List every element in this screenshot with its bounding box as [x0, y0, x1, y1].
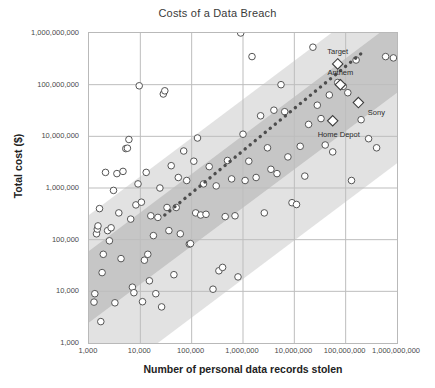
data-point — [118, 255, 125, 262]
data-point — [246, 158, 253, 165]
data-point — [235, 274, 242, 281]
data-point — [278, 81, 285, 88]
data-point — [148, 213, 155, 220]
data-point — [143, 169, 150, 176]
data-point — [155, 214, 162, 221]
data-point — [390, 55, 397, 62]
data-point-label: Anthem — [327, 67, 353, 76]
data-point — [175, 174, 182, 181]
data-point — [310, 44, 317, 51]
data-point — [268, 166, 275, 173]
x-tick-label: 1,000,000 — [225, 346, 258, 355]
data-point — [219, 264, 226, 271]
data-point — [305, 121, 312, 128]
data-point — [232, 213, 239, 220]
data-point — [157, 185, 164, 192]
data-point — [126, 136, 133, 143]
data-point — [382, 53, 389, 60]
data-point — [102, 169, 109, 176]
data-point — [183, 177, 190, 184]
data-point — [249, 53, 256, 60]
data-point — [228, 176, 235, 183]
data-point — [237, 33, 244, 36]
data-point — [314, 102, 321, 109]
data-point — [326, 92, 333, 99]
data-point — [257, 113, 264, 120]
data-point — [124, 145, 131, 152]
data-point — [139, 298, 146, 305]
data-point — [135, 181, 142, 188]
data-point — [274, 170, 281, 177]
data-point — [297, 143, 304, 150]
data-point — [329, 149, 336, 156]
plot-area: TargetAnthemSonyHome Depot — [88, 32, 398, 344]
y-tick-label: 10,000,000 — [41, 131, 84, 140]
x-tick-label: 1,000,000,000 — [372, 346, 420, 355]
data-point — [213, 183, 220, 190]
x-axis-title: Number of personal data records stolen — [88, 363, 398, 375]
x-tick-label: 10,000,000 — [275, 346, 313, 355]
data-point-label: Sony — [368, 107, 385, 116]
data-point — [365, 135, 372, 142]
data-point — [106, 238, 113, 245]
x-axis-ticks: 1,00010,000100,0001,000,00010,000,000100… — [0, 346, 435, 362]
data-point — [116, 210, 123, 217]
data-point — [99, 269, 106, 276]
chart-title: Costs of a Data Breach — [0, 7, 435, 19]
data-point — [302, 173, 309, 180]
data-point — [322, 142, 329, 149]
data-point — [95, 223, 102, 230]
data-point — [271, 107, 278, 114]
data-point — [348, 177, 355, 184]
data-point — [194, 135, 201, 142]
data-point — [166, 227, 173, 234]
data-point-label: Home Depot — [318, 129, 360, 138]
data-point-label: Target — [327, 46, 348, 55]
data-point — [108, 225, 115, 232]
data-point — [171, 271, 178, 278]
data-point — [242, 177, 249, 184]
data-point — [145, 251, 152, 258]
data-point — [98, 318, 105, 325]
data-point — [153, 290, 160, 297]
data-point — [373, 145, 380, 152]
plot-svg — [89, 33, 397, 343]
data-point — [293, 201, 300, 208]
data-point — [281, 108, 288, 115]
data-point — [222, 213, 229, 220]
data-point — [120, 168, 127, 175]
y-tick-label: 100,000 — [52, 234, 84, 243]
data-point — [146, 278, 153, 285]
data-point — [210, 286, 217, 293]
data-point — [264, 145, 271, 152]
y-tick-label: 1,000,000 — [46, 183, 84, 192]
data-point — [158, 304, 165, 311]
data-point — [203, 211, 210, 218]
x-tick-label: 1,000 — [79, 346, 98, 355]
data-point — [131, 289, 138, 296]
data-point — [187, 240, 194, 247]
data-point — [191, 158, 198, 165]
x-tick-label: 100,000 — [177, 346, 204, 355]
y-tick-label: 1,000,000,000 — [31, 28, 84, 37]
data-point — [206, 163, 213, 170]
y-axis-title: Total cost ($) — [12, 101, 24, 231]
data-point — [318, 115, 325, 122]
chart-page: Costs of a Data Breach TargetAnthemSonyH… — [0, 0, 435, 388]
data-point — [110, 187, 117, 194]
data-point — [112, 300, 119, 307]
x-tick-label: 100,000,000 — [324, 346, 366, 355]
y-tick-label: 100,000,000 — [37, 79, 84, 88]
y-tick-label: 10,000 — [56, 286, 84, 295]
data-point — [358, 116, 365, 123]
data-point — [100, 251, 107, 258]
data-point — [240, 131, 247, 138]
data-point — [91, 299, 98, 306]
data-point — [180, 148, 187, 155]
data-point — [138, 199, 145, 206]
data-point — [92, 290, 99, 297]
data-point — [261, 210, 268, 217]
data-point — [285, 154, 292, 161]
data-point — [136, 83, 143, 90]
data-point — [345, 89, 352, 96]
